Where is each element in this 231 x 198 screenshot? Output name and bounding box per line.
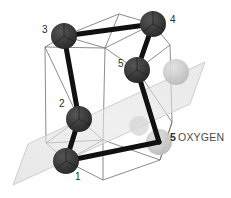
atom-label-3: 3 xyxy=(42,25,48,35)
atom-label-5: 5 xyxy=(118,59,124,69)
crystal-structure-diagram: 1 2 3 4 5 5OXYGEN xyxy=(0,0,231,198)
atom-label-2: 2 xyxy=(59,99,65,109)
bond-3-4 xyxy=(64,24,153,36)
crystal-structure-svg xyxy=(0,0,231,198)
atom-3 xyxy=(51,23,77,49)
legend-oxygen-number: 5 xyxy=(170,131,176,143)
legend-oxygen: 5OXYGEN xyxy=(170,132,224,143)
legend-oxygen-label: OXYGEN xyxy=(178,131,224,143)
atom-label-4: 4 xyxy=(170,15,176,25)
atom-label-1: 1 xyxy=(75,172,81,182)
atom-5 xyxy=(124,57,150,83)
ghost-oxygen-mid-atom xyxy=(129,116,149,136)
atom-4 xyxy=(140,11,166,37)
atom-2 xyxy=(66,106,92,132)
ghost-oxygen-upper-atom xyxy=(163,59,189,85)
